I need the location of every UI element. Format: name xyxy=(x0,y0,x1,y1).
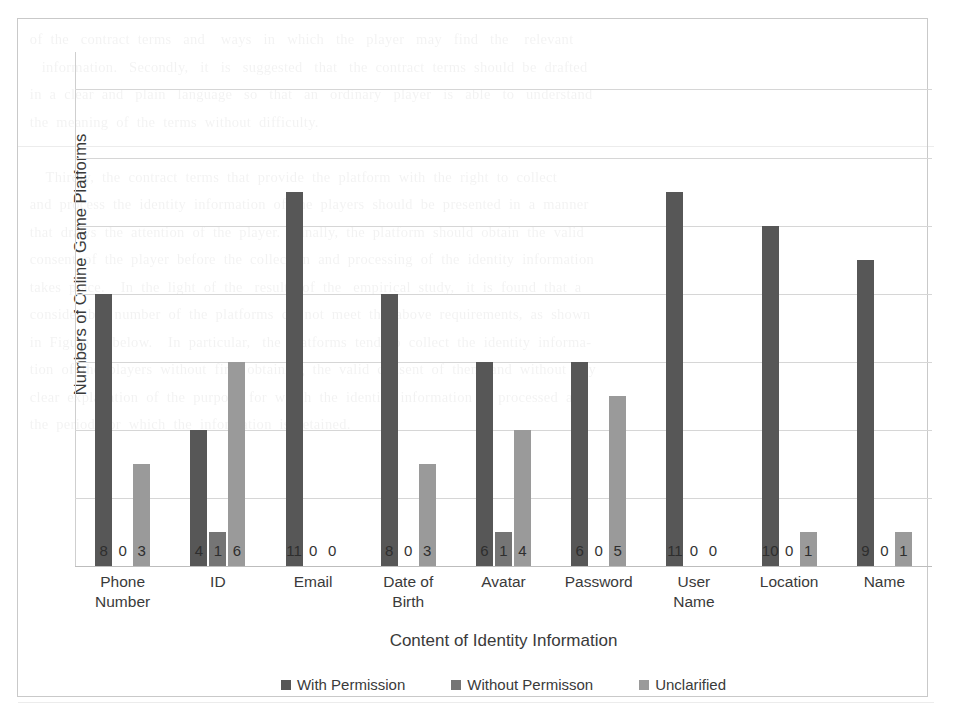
bar-value-label: 1 xyxy=(214,543,222,558)
chart-legend: With PermissionWithout PermissonUnclarif… xyxy=(75,677,932,692)
bar-rect xyxy=(571,362,588,566)
bar[interactable]: 1 xyxy=(495,52,512,566)
category-label: Date of Birth xyxy=(361,572,456,612)
scan-rule-artifact xyxy=(18,702,934,703)
category-label: Location xyxy=(742,572,837,612)
category-label: Name xyxy=(837,572,932,612)
legend-swatch-icon xyxy=(451,680,461,690)
chart-frame: Numbers of Online Game Platforms 8034161… xyxy=(17,18,928,697)
bar[interactable]: 9 xyxy=(857,52,874,566)
bar[interactable]: 0 xyxy=(400,52,417,566)
bar[interactable]: 0 xyxy=(114,52,131,566)
bar-value-label: 8 xyxy=(385,543,393,558)
bar[interactable]: 0 xyxy=(876,52,893,566)
legend-swatch-icon xyxy=(639,680,649,690)
bar-value-label: 0 xyxy=(709,543,717,558)
legend-item[interactable]: Without Permisson xyxy=(451,677,593,692)
bar-value-label: 0 xyxy=(595,543,603,558)
bar-value-label: 3 xyxy=(137,543,145,558)
bar-value-label: 6 xyxy=(480,543,488,558)
category-label: Email xyxy=(265,572,360,612)
bar-value-label: 1 xyxy=(804,543,812,558)
bar-value-label: 6 xyxy=(576,543,584,558)
bar[interactable]: 1 xyxy=(209,52,226,566)
bar-rect xyxy=(95,294,112,566)
bar[interactable]: 0 xyxy=(781,52,798,566)
bar-rect xyxy=(762,226,779,566)
bar-value-label: 3 xyxy=(423,543,431,558)
bar-rect xyxy=(857,260,874,566)
bar-rect xyxy=(666,192,683,566)
bar-value-label: 5 xyxy=(614,543,622,558)
bar-group: 901 xyxy=(837,52,932,566)
bar-value-label: 6 xyxy=(233,543,241,558)
bar-value-label: 11 xyxy=(286,543,302,558)
category-label: Avatar xyxy=(456,572,551,612)
bar[interactable]: 11 xyxy=(286,52,303,566)
category-axis-line xyxy=(75,566,932,567)
scan-text-line xyxy=(22,714,932,720)
bar[interactable]: 0 xyxy=(305,52,322,566)
category-label: Phone Number xyxy=(75,572,170,612)
bar-value-label: 0 xyxy=(880,543,888,558)
bar[interactable]: 8 xyxy=(95,52,112,566)
bar-group: 605 xyxy=(551,52,646,566)
bar[interactable]: 6 xyxy=(476,52,493,566)
legend-label: Without Permisson xyxy=(467,677,593,692)
bar-value-label: 0 xyxy=(118,543,126,558)
bar[interactable]: 11 xyxy=(666,52,683,566)
bar-value-label: 0 xyxy=(328,543,336,558)
legend-swatch-icon xyxy=(281,680,291,690)
legend-label: Unclarified xyxy=(655,677,726,692)
bar-group: 614 xyxy=(456,52,551,566)
bar-rect xyxy=(609,396,626,566)
category-label: User Name xyxy=(646,572,741,612)
legend-item[interactable]: With Permission xyxy=(281,677,405,692)
bar-group: 1100 xyxy=(646,52,741,566)
legend-label: With Permission xyxy=(297,677,405,692)
bar-group: 416 xyxy=(170,52,265,566)
bar[interactable]: 10 xyxy=(762,52,779,566)
bar[interactable]: 3 xyxy=(419,52,436,566)
bar[interactable]: 4 xyxy=(514,52,531,566)
bar-value-label: 1 xyxy=(899,543,907,558)
bar-value-label: 8 xyxy=(99,543,107,558)
bar-rect xyxy=(228,362,245,566)
bar-rect xyxy=(381,294,398,566)
bar[interactable]: 0 xyxy=(704,52,721,566)
bar-rect xyxy=(286,192,303,566)
bar-value-label: 11 xyxy=(667,543,683,558)
bar[interactable]: 1 xyxy=(895,52,912,566)
bar-value-label: 0 xyxy=(309,543,317,558)
bar[interactable]: 0 xyxy=(324,52,341,566)
category-axis-labels: Phone NumberIDEmailDate of BirthAvatarPa… xyxy=(75,572,932,612)
bar[interactable]: 6 xyxy=(228,52,245,566)
bar-value-label: 4 xyxy=(195,543,203,558)
bar-group: 1100 xyxy=(265,52,360,566)
bar[interactable]: 4 xyxy=(190,52,207,566)
bar-value-label: 9 xyxy=(861,543,869,558)
bar-value-label: 4 xyxy=(518,543,526,558)
category-label: ID xyxy=(170,572,265,612)
x-axis-title: Content of Identity Information xyxy=(75,631,932,651)
bar[interactable]: 5 xyxy=(609,52,626,566)
bar-group: 1001 xyxy=(742,52,837,566)
bar[interactable]: 0 xyxy=(590,52,607,566)
bar-groups: 803416110080361460511001001901 xyxy=(75,52,932,566)
plot-area: 803416110080361460511001001901 xyxy=(75,52,932,567)
bar[interactable]: 8 xyxy=(381,52,398,566)
category-label: Password xyxy=(551,572,646,612)
bar-rect xyxy=(476,362,493,566)
bar-value-label: 0 xyxy=(404,543,412,558)
bar-value-label: 10 xyxy=(762,543,779,558)
bar-group: 803 xyxy=(361,52,456,566)
bar-group: 803 xyxy=(75,52,170,566)
bar[interactable]: 1 xyxy=(800,52,817,566)
bar[interactable]: 6 xyxy=(571,52,588,566)
bar-value-label: 0 xyxy=(690,543,698,558)
bar[interactable]: 0 xyxy=(685,52,702,566)
bar-value-label: 0 xyxy=(785,543,793,558)
bar[interactable]: 3 xyxy=(133,52,150,566)
legend-item[interactable]: Unclarified xyxy=(639,677,726,692)
bar-value-label: 1 xyxy=(499,543,507,558)
